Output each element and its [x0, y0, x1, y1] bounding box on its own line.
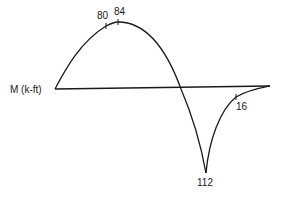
- label-84: 84: [114, 7, 125, 17]
- label-112: 112: [197, 178, 213, 188]
- axis-label: M (k-ft): [10, 85, 42, 95]
- positive-moment-curve: [55, 22, 181, 89]
- negative-moment-curve-right: [206, 86, 270, 173]
- baseline: [55, 86, 270, 89]
- label-16: 16: [236, 102, 247, 112]
- moment-diagram-drawing: [0, 0, 284, 197]
- label-80: 80: [97, 11, 108, 21]
- negative-moment-curve-left: [181, 89, 206, 173]
- moment-diagram: M (k-ft) 80 84 16 112: [0, 0, 284, 197]
